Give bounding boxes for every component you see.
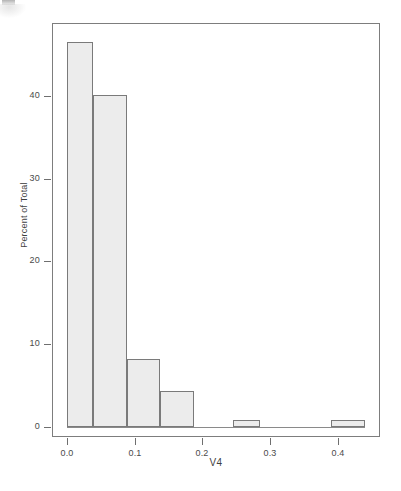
y-axis-tick-label: 10 bbox=[8, 338, 40, 348]
x-axis-label: V4 bbox=[52, 457, 380, 468]
histogram-bar bbox=[233, 420, 260, 427]
histogram-bar bbox=[127, 359, 160, 427]
y-axis-tick bbox=[44, 179, 51, 180]
x-axis-tick bbox=[270, 438, 271, 445]
histogram-bar bbox=[67, 42, 93, 427]
y-axis-tick-label: 0 bbox=[8, 421, 40, 431]
y-axis-label: Percent of Total bbox=[19, 145, 29, 285]
histogram-bar bbox=[93, 95, 127, 427]
y-axis-tick bbox=[44, 427, 51, 428]
histogram-bar bbox=[331, 420, 365, 427]
plot-area: 010203040 0.00.10.20.30.4 bbox=[0, 0, 401, 491]
histogram-figure: 010203040 0.00.10.20.30.4 V4 Percent of … bbox=[0, 0, 401, 491]
x-axis-tick bbox=[338, 438, 339, 445]
x-axis-tick bbox=[67, 438, 68, 445]
y-axis-tick-label: 40 bbox=[8, 90, 40, 100]
histogram-bar bbox=[160, 391, 194, 427]
y-axis-tick bbox=[44, 261, 51, 262]
y-axis-tick bbox=[44, 344, 51, 345]
x-axis-tick bbox=[135, 438, 136, 445]
x-axis-tick bbox=[202, 438, 203, 445]
y-axis-tick bbox=[44, 96, 51, 97]
zero-baseline bbox=[67, 427, 365, 428]
